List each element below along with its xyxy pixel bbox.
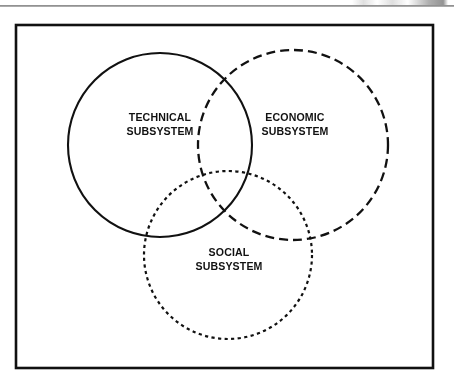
social-subsystem-label-line1: SOCIAL bbox=[170, 245, 288, 259]
social-subsystem-label-line2: SUBSYSTEM bbox=[170, 259, 288, 273]
technical-subsystem-label-line1: TECHNICAL bbox=[101, 110, 219, 124]
economic-subsystem-label: ECONOMIC SUBSYSTEM bbox=[236, 110, 354, 138]
economic-subsystem-circle bbox=[198, 50, 388, 240]
technical-subsystem-label-line2: SUBSYSTEM bbox=[101, 124, 219, 138]
economic-subsystem-label-line2: SUBSYSTEM bbox=[236, 124, 354, 138]
figure-frame-border bbox=[16, 25, 433, 368]
economic-subsystem-label-line1: ECONOMIC bbox=[236, 110, 354, 124]
social-subsystem-label: SOCIAL SUBSYSTEM bbox=[170, 245, 288, 273]
technical-subsystem-label: TECHNICAL SUBSYSTEM bbox=[101, 110, 219, 138]
page-canvas: TECHNICAL SUBSYSTEM ECONOMIC SUBSYSTEM S… bbox=[0, 0, 454, 388]
venn-diagram-figure bbox=[0, 0, 454, 388]
